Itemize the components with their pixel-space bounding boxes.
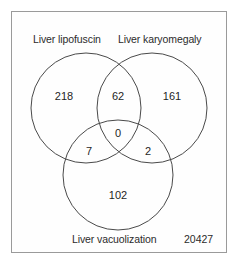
outside-total-count: 20427 bbox=[184, 233, 213, 245]
set-label-liver-vacuolization: Liver vacuolization bbox=[72, 233, 156, 245]
venn-diagram-figure: Liver lipofuscin Liver karyomegaly Liver… bbox=[0, 0, 238, 274]
region-count-vacuolization-only: 102 bbox=[109, 189, 127, 201]
region-count-lipofuscin-vacuolization: 7 bbox=[86, 145, 92, 157]
region-count-karyomegaly-only: 161 bbox=[163, 90, 181, 102]
region-count-all-three: 0 bbox=[115, 127, 121, 139]
set-label-liver-karyomegaly: Liver karyomegaly bbox=[118, 33, 202, 45]
set-label-liver-lipofuscin: Liver lipofuscin bbox=[33, 33, 101, 45]
region-count-karyomegaly-vacuolization: 2 bbox=[145, 145, 151, 157]
circle-liver-karyomegaly bbox=[97, 53, 207, 163]
region-count-lipofuscin-only: 218 bbox=[55, 90, 73, 102]
region-count-lipofuscin-karyomegaly: 62 bbox=[112, 90, 124, 102]
